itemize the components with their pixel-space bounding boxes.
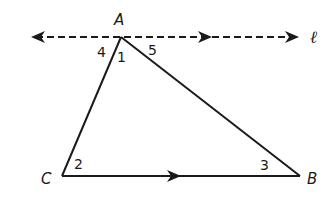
right-arrowhead-icon: [285, 31, 299, 43]
line-label-l: ℓ: [310, 27, 317, 47]
angle-label-2: 2: [74, 156, 83, 172]
angle-label-1: 1: [117, 49, 126, 65]
vertex-label-b: B: [307, 170, 317, 188]
angle-label-5: 5: [148, 42, 157, 58]
vertex-label-c: C: [41, 170, 52, 188]
geometry-diagram: A B C ℓ 4 1 5 2 3: [0, 0, 333, 202]
angle-label-4: 4: [97, 44, 106, 60]
line-l: [31, 31, 299, 43]
angle-label-3: 3: [260, 157, 269, 173]
parallel-marker-icon: [198, 31, 212, 43]
side-ac: [62, 37, 121, 176]
vertex-label-a: A: [113, 11, 124, 29]
